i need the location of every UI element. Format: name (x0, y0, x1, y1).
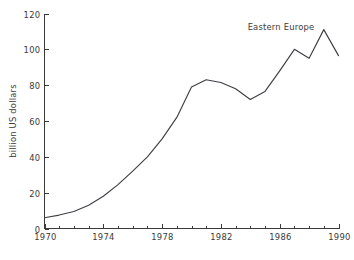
y-axis-tick-labels: 020406080100120 (24, 10, 41, 235)
y-tick-label: 100 (24, 45, 41, 55)
x-tick-label: 1986 (269, 232, 292, 242)
line-chart-canvas: 020406080100120 197019741978198219861990… (0, 0, 354, 260)
y-axis-title: billion US dollars (8, 84, 18, 157)
axis-spines (45, 14, 339, 229)
y-tick-label: 60 (29, 117, 40, 127)
x-tick-label: 1978 (151, 232, 174, 242)
x-tick-label: 1970 (34, 232, 57, 242)
x-axis-tick-labels: 197019741978198219861990 (34, 232, 351, 242)
x-tick-label: 1974 (92, 232, 115, 242)
y-tick-label: 120 (24, 10, 41, 20)
x-tick-label: 1982 (210, 232, 233, 242)
y-axis-ticks (45, 15, 49, 230)
series-annotation-label: Eastern Europe (248, 22, 315, 32)
y-tick-label: 20 (29, 189, 40, 199)
series-line-eastern-europe (45, 30, 339, 218)
x-tick-label: 1990 (328, 232, 351, 242)
y-tick-label: 40 (29, 153, 40, 163)
y-tick-label: 80 (29, 81, 40, 91)
chart-figure: 020406080100120 197019741978198219861990… (0, 0, 354, 260)
